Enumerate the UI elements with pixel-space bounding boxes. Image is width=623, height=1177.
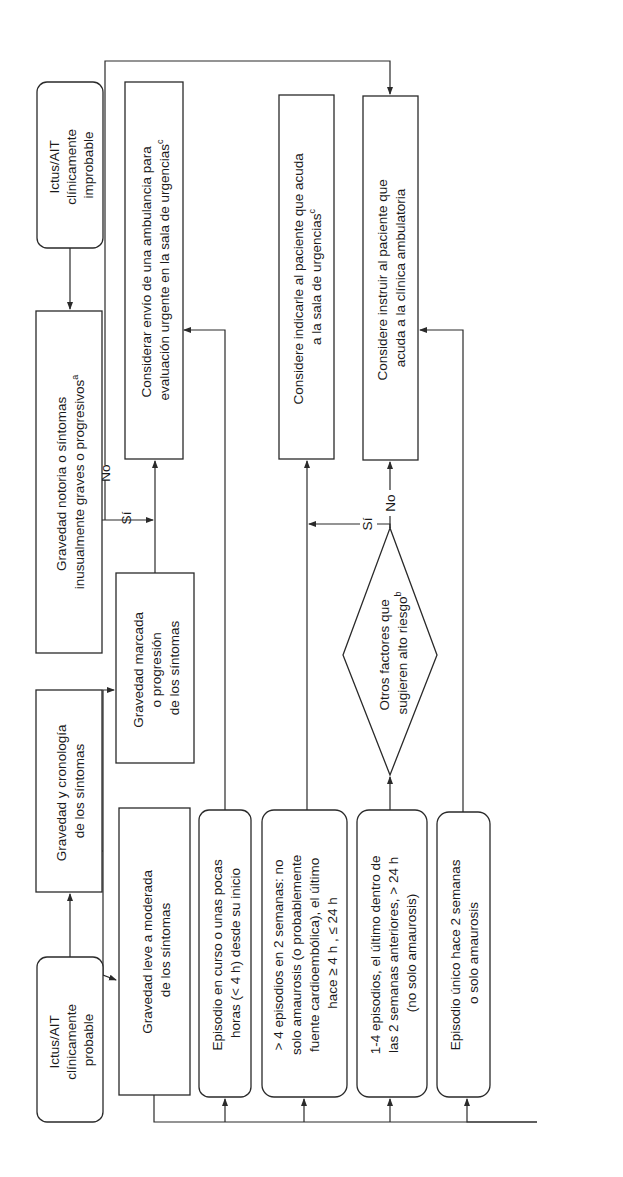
- node-mas-4-episodios: > 4 episodios en 2 semanas: no solo amau…: [262, 810, 347, 1097]
- node-considere-instruir: Considere instruir al paciente que acuda…: [363, 96, 418, 460]
- arrow-to-marcada: [103, 690, 114, 851]
- edge-label-factores-si: Sí: [360, 517, 375, 530]
- node-gravedad-leve: Gravedad leve a moderada de los síntomas: [119, 808, 190, 1095]
- arrow-unico-to-instruir: [420, 330, 463, 812]
- node-gravedad-notoria: Gravedad notoria o síntomas inusualmente…: [36, 311, 102, 653]
- node-ictus-improbable: Ictus/AIT clínicamente improbable: [37, 82, 103, 248]
- line-bottom-bus: [154, 1095, 537, 1122]
- edge-label-notoria-si: Sí: [119, 511, 134, 524]
- node-ictus-probable: Ictus/AIT clínicamente probable: [37, 957, 103, 1122]
- line-factores-si-a: [377, 524, 390, 528]
- node-gravedad-marcada: Gravedad marcada o progresión de los sín…: [116, 573, 194, 763]
- node-episodio-unico: Episodio único hace 2 semanas o solo ama…: [437, 812, 490, 1097]
- node-considerar-ambulancia: Considerar envío de una ambulancia para …: [125, 82, 183, 459]
- node-episodio-en-curso: Episodio en curso o unas pocas horas (< …: [199, 810, 251, 1097]
- edge-label-factores-no: No: [383, 494, 398, 511]
- svg-text:Ictus/AIT clínicamente: Ictus/AIT clínicamente improbable: [47, 125, 96, 205]
- node-otros-factores-decision: Otros factores que sugieren alto riesgob: [343, 528, 437, 775]
- flowchart-canvas: Sí No Sí No Ictus/AIT clínicamente impro…: [0, 0, 623, 1177]
- arrow-to-leve: [103, 851, 116, 980]
- node-gravedad-cronologia: Gravedad y cronología de los síntomas: [36, 690, 102, 892]
- node-considere-indicarle: Considere indicarle al paciente que acud…: [279, 95, 334, 459]
- node-1-4-episodios: 1-4 episodios, el último dentro de las 2…: [357, 810, 427, 1097]
- arrow-bus-to-unico: [467, 1099, 537, 1122]
